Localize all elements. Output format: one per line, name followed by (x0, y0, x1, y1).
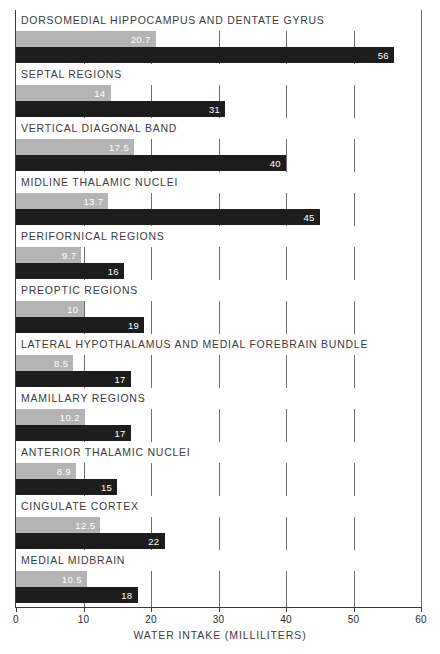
bar-value-label: 31 (209, 104, 220, 115)
bar-dark: 22 (16, 533, 165, 549)
bar-value-label: 14 (94, 88, 105, 99)
bar-light: 8.9 (16, 463, 76, 479)
category-label-band: VERTICAL DIAGONAL BAND (16, 118, 421, 139)
category-label-band: MEDIAL MIDBRAIN (16, 550, 421, 571)
tick-30 (219, 607, 220, 612)
category-label-band: MIDLINE THALAMIC NUCLEI (16, 172, 421, 193)
bar-value-label: 16 (108, 266, 119, 277)
tick-label-10: 10 (78, 614, 90, 625)
bar-value-label: 40 (270, 158, 281, 169)
bar-row: 14 (16, 85, 421, 101)
bar-light: 14 (16, 85, 111, 101)
bar-row: 19 (16, 317, 421, 333)
bar-value-label: 8.9 (57, 466, 71, 477)
category-label: MIDLINE THALAMIC NUCLEI (21, 176, 178, 188)
bar-row: 17 (16, 371, 421, 387)
category-label-band: DORSOMEDIAL HIPPOCAMPUS AND DENTATE GYRU… (16, 10, 421, 31)
bar-light: 17.5 (16, 139, 134, 155)
bar-light: 9.7 (16, 247, 81, 263)
bar-row: 8.5 (16, 355, 421, 371)
bar-row: 17 (16, 425, 421, 441)
category-label: VERTICAL DIAGONAL BAND (21, 122, 177, 134)
bar-dark: 40 (16, 155, 286, 171)
bar-value-label: 45 (303, 212, 314, 223)
bar-row: 20.7 (16, 31, 421, 47)
tick-50 (354, 607, 355, 612)
bar-value-label: 17 (114, 428, 125, 439)
bar-dark: 19 (16, 317, 144, 333)
bar-dark: 18 (16, 587, 138, 603)
bar-row: 10.5 (16, 571, 421, 587)
bar-light: 12.5 (16, 517, 100, 533)
bar-dark: 17 (16, 371, 131, 387)
bar-group: VERTICAL DIAGONAL BAND17.540 (16, 118, 421, 171)
bar-row: 8.9 (16, 463, 421, 479)
bar-value-label: 17 (114, 374, 125, 385)
category-label: PREOPTIC REGIONS (21, 284, 138, 296)
bar-row: 17.5 (16, 139, 421, 155)
bar-dark: 16 (16, 263, 124, 279)
tick-60 (421, 607, 422, 612)
bar-value-label: 9.7 (62, 250, 76, 261)
bar-value-label: 15 (101, 482, 112, 493)
bar-dark: 31 (16, 101, 225, 117)
category-label-band: MAMILLARY REGIONS (16, 388, 421, 409)
bar-dark: 15 (16, 479, 117, 495)
category-label-band: PERIFORNICAL REGIONS (16, 226, 421, 247)
category-label: LATERAL HYPOTHALAMUS AND MEDIAL FOREBRAI… (21, 338, 368, 350)
bar-row: 15 (16, 479, 421, 495)
bar-value-label: 10.2 (60, 412, 80, 423)
tick-label-30: 30 (213, 614, 225, 625)
gridline-60 (421, 10, 422, 607)
tick-label-60: 60 (415, 614, 427, 625)
bar-group: SEPTAL REGIONS1431 (16, 64, 421, 117)
bar-row: 56 (16, 47, 421, 63)
tick-label-40: 40 (280, 614, 292, 625)
category-label: MAMILLARY REGIONS (21, 392, 145, 404)
bar-value-label: 8.5 (54, 358, 68, 369)
bar-light: 10.2 (16, 409, 85, 425)
bar-row: 40 (16, 155, 421, 171)
bar-value-label: 13.7 (83, 196, 103, 207)
bar-light: 13.7 (16, 193, 108, 209)
bar-group: PREOPTIC REGIONS1019 (16, 280, 421, 333)
category-label: SEPTAL REGIONS (21, 68, 122, 80)
bar-row: 12.5 (16, 517, 421, 533)
bar-group: PERIFORNICAL REGIONS9.716 (16, 226, 421, 279)
bar-value-label: 17.5 (109, 142, 129, 153)
bar-group: ANTERIOR THALAMIC NUCLEI8.915 (16, 442, 421, 495)
bar-value-label: 12.5 (75, 520, 95, 531)
bar-dark: 56 (16, 47, 394, 63)
category-label: DORSOMEDIAL HIPPOCAMPUS AND DENTATE GYRU… (21, 14, 325, 26)
x-axis-title: WATER INTAKE (MILLILITERS) (0, 629, 440, 641)
bar-row: 22 (16, 533, 421, 549)
bar-chart: DORSOMEDIAL HIPPOCAMPUS AND DENTATE GYRU… (0, 0, 440, 654)
bar-dark: 17 (16, 425, 131, 441)
tick-0 (16, 607, 17, 612)
bar-value-label: 10 (67, 304, 78, 315)
bar-row: 10 (16, 301, 421, 317)
bar-group: MAMILLARY REGIONS10.217 (16, 388, 421, 441)
tick-40 (286, 607, 287, 612)
bar-row: 16 (16, 263, 421, 279)
tick-label-20: 20 (145, 614, 157, 625)
bar-row: 9.7 (16, 247, 421, 263)
category-label-band: SEPTAL REGIONS (16, 64, 421, 85)
bar-light: 10 (16, 301, 84, 317)
bar-row: 10.2 (16, 409, 421, 425)
bar-value-label: 18 (121, 590, 132, 601)
category-label-band: ANTERIOR THALAMIC NUCLEI (16, 442, 421, 463)
category-label: MEDIAL MIDBRAIN (21, 554, 125, 566)
category-label: ANTERIOR THALAMIC NUCLEI (21, 446, 191, 458)
bar-value-label: 22 (148, 536, 159, 547)
bar-row: 18 (16, 587, 421, 603)
category-label: CINGULATE CORTEX (21, 500, 139, 512)
tick-20 (151, 607, 152, 612)
tick-label-50: 50 (348, 614, 360, 625)
category-label: PERIFORNICAL REGIONS (21, 230, 165, 242)
bar-value-label: 10.5 (62, 574, 82, 585)
bar-light: 10.5 (16, 571, 87, 587)
bar-group: LATERAL HYPOTHALAMUS AND MEDIAL FOREBRAI… (16, 334, 421, 387)
bar-group: MIDLINE THALAMIC NUCLEI13.745 (16, 172, 421, 225)
plot-area: DORSOMEDIAL HIPPOCAMPUS AND DENTATE GYRU… (16, 10, 421, 607)
